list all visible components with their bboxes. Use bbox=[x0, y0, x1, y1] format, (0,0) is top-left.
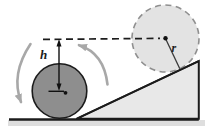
ghost-ball-center-dot bbox=[163, 36, 167, 40]
incline-diagram-svg: h r bbox=[0, 0, 207, 132]
diagram-canvas: h r bbox=[0, 0, 207, 132]
radius-label: r bbox=[172, 41, 177, 55]
height-label: h bbox=[40, 47, 47, 62]
solid-ball-center-dot bbox=[64, 91, 68, 95]
ground-shadow bbox=[8, 120, 205, 126]
rotation-arrow-left bbox=[17, 44, 30, 102]
